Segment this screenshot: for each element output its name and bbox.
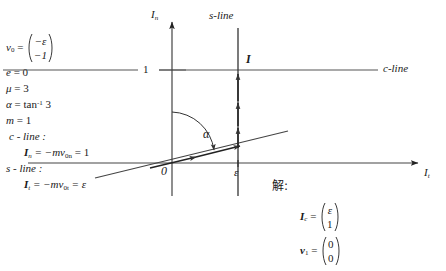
impulse-arrow-segment-1 (150, 157, 196, 168)
v0-component-1: −ε (35, 34, 47, 48)
m-operator: = (17, 114, 23, 126)
c-line-label: c-line (383, 62, 408, 74)
impulse-arrow-segment-2 (196, 146, 240, 157)
solution-label: 解: (272, 176, 288, 193)
e-operator: = (14, 66, 20, 78)
s-line-mid-sub: 0t (63, 184, 68, 192)
impulse-diagonal-line (95, 131, 288, 178)
paren-right-icon (334, 202, 341, 232)
v0-subscript: 0 (11, 46, 15, 54)
alpha-argument: 3 (46, 98, 52, 110)
mu-operator: = (14, 82, 20, 94)
y-axis-label: In (151, 8, 158, 22)
paren-right-icon (335, 236, 342, 266)
m-value: 1 (26, 114, 32, 126)
impulse-label: I (246, 52, 251, 67)
v1-component-2: 0 (328, 251, 334, 265)
e-symbol: e (6, 66, 11, 78)
paren-left-icon (319, 202, 326, 232)
solution-equations: Ic = ε 1 v1 = (300, 202, 342, 270)
m-symbol: m (6, 114, 14, 126)
v1-vector: 0 0 (320, 236, 342, 266)
s-line-mid: = −mv (33, 178, 63, 190)
c-line-mid-sub: 0n (65, 152, 72, 160)
v0-component-2: −1 (34, 48, 47, 62)
equation-m: m = 1 (6, 115, 116, 131)
c-line-lhs-sub: n (28, 152, 32, 160)
s-line-tail: = ε (72, 178, 87, 190)
alpha-exponent: -1 (37, 99, 43, 107)
Ic-vector: ε 1 (319, 202, 341, 232)
paren-right-icon (48, 33, 55, 63)
equation-e: e = 0 (6, 67, 116, 83)
equation-Ic: Ic = ε 1 (300, 202, 342, 236)
v1-subscript: 1 (305, 249, 309, 257)
x-axis-label: It (424, 166, 430, 180)
alpha-function: tan (24, 98, 37, 110)
c-line-mid: = −mv (35, 146, 65, 158)
figure-canvas: v0 = −ε −1 e = 0 (0, 0, 446, 271)
s-line-equation: It = −mv0t = ε (6, 179, 116, 195)
equation-v0: v0 = −ε −1 (6, 33, 116, 67)
Ic-equals: = (310, 210, 316, 222)
left-parameter-block: v0 = −ε −1 e = 0 (6, 33, 116, 195)
v1-equals: = (311, 244, 317, 256)
v1-component-1: 0 (328, 237, 334, 251)
e-value: 0 (23, 66, 29, 78)
c-line-equation: In = −mv0n = 1 (6, 147, 116, 163)
Ic-component-2: 1 (327, 217, 333, 231)
equation-mu: μ = 3 (6, 83, 116, 99)
Ic-component-1: ε (328, 203, 332, 217)
c-line-heading: c - line : (6, 131, 116, 147)
alpha-symbol: α (6, 98, 12, 110)
angle-alpha-label: α (203, 127, 209, 142)
s-line-lhs-sub: t (28, 184, 30, 192)
equation-v1: v1 = 0 0 (300, 236, 342, 270)
v0-equals: = (17, 41, 23, 53)
paren-left-icon (320, 236, 327, 266)
Ic-subscript: c (304, 215, 307, 223)
s-line-heading: s - line : (6, 163, 116, 179)
mu-symbol: μ (6, 82, 12, 94)
y-tick-label-1: 1 (143, 63, 149, 75)
origin-label: 0 (161, 164, 167, 179)
mu-value: 3 (23, 82, 29, 94)
s-line-label: s-line (209, 9, 233, 21)
x-tick-label-epsilon: ε (234, 166, 238, 178)
v0-vector: −ε −1 (26, 33, 55, 63)
alpha-operator: = (15, 98, 21, 110)
c-line-tail: = 1 (75, 146, 89, 158)
paren-left-icon (26, 33, 33, 63)
right-solution-block: 解: Ic = ε 1 (272, 176, 288, 193)
equation-alpha: α = tan-1 3 (6, 99, 116, 115)
